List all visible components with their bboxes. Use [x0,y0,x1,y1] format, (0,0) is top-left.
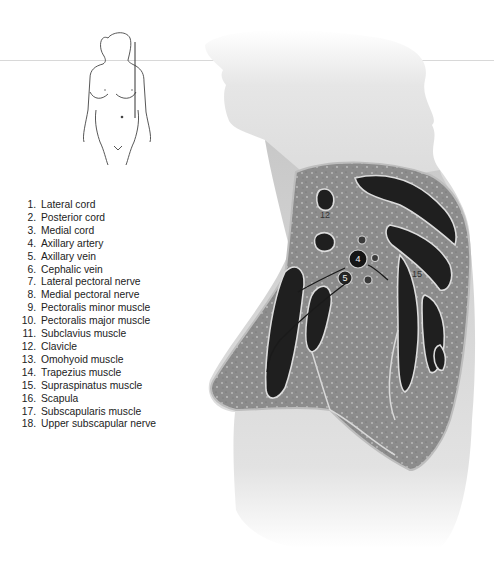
label-12: 12 [320,210,330,220]
legend-item: 5.Axillary vein [14,251,156,264]
label-5: 5 [342,273,347,283]
brachial-cord-2 [372,255,379,262]
legend-item: 16.Scapula [14,393,156,406]
legend-item: 18.Upper subscapular nerve [14,418,156,431]
clavicle-bone [315,233,335,252]
legend-item: 1.Lateral cord [14,199,156,212]
legend-item: 4.Axillary artery [14,238,156,251]
legend-item: 17.Subscapularis muscle [14,406,156,419]
legend-item: 15.Supraspinatus muscle [14,380,156,393]
legend-item: 9.Pectoralis minor muscle [14,302,156,315]
legend-item: 8.Medial pectoral nerve [14,289,156,302]
legend-item: 2.Posterior cord [14,212,156,225]
subclavius-muscle [317,189,334,210]
legend-item: 12.Clavicle [14,341,156,354]
label-15: 15 [412,269,422,279]
legend-item: 3.Medial cord [14,225,156,238]
legend-item: 7.Lateral pectoral nerve [14,276,156,289]
legend-item: 13.Omohyoid muscle [14,354,156,367]
legend-item: 11.Subclavius muscle [14,328,156,341]
legend-item: 6.Cephalic vein [14,264,156,277]
legend-item: 14.Trapezius muscle [14,367,156,380]
legend-item: 10.Pectoralis major muscle [14,315,156,328]
label-4: 4 [355,254,360,264]
cephalic-vein [358,236,366,244]
brachial-cord [364,276,372,284]
structure-legend: 1.Lateral cord 2.Posterior cord 3.Medial… [14,199,156,431]
